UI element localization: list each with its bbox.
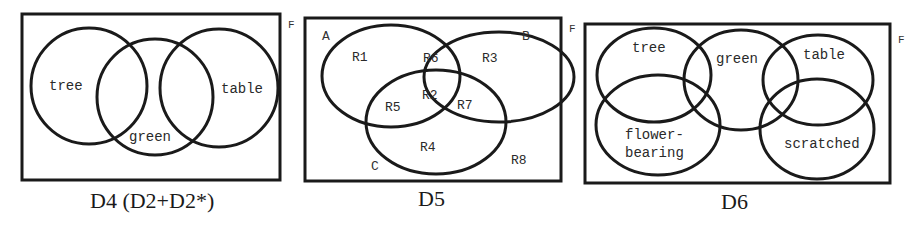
d5-region-r5: R5	[385, 100, 401, 115]
d6-label-scratched: scratched	[784, 136, 860, 152]
d5-region-r1: R1	[352, 50, 368, 65]
d4-label-tree: tree	[49, 78, 83, 94]
d5-caption: D5	[418, 186, 445, 211]
d6-caption: D6	[721, 189, 748, 214]
d5-region-r8: R8	[511, 153, 527, 168]
d5-set-label-c: C	[371, 159, 379, 174]
d4-frame-label: F	[288, 19, 295, 31]
d5-region-r6: R6	[423, 51, 439, 66]
d5-region-r7: R7	[457, 98, 473, 113]
d5-region-r3: R3	[482, 51, 498, 66]
d5-region-r4: R4	[420, 140, 436, 155]
d6-label-green: green	[716, 51, 758, 67]
d4-label-table: table	[221, 81, 263, 97]
diagram-d6: F tree green table flower- bearing scrat…	[585, 24, 905, 214]
d4-caption: D4 (D2+D2*)	[90, 188, 214, 213]
d6-ellipse-scratched	[760, 79, 874, 179]
d5-set-label-a: A	[322, 29, 330, 44]
d4-label-green: green	[129, 129, 171, 145]
d5-frame-label: F	[569, 23, 576, 35]
d5-region-r2: R2	[422, 88, 438, 103]
d6-label-flower-bearing-line1: flower-	[625, 127, 684, 143]
diagram-d5: F A B C R1 R2 R3 R4 R5 R6 R7 R8 D5	[305, 18, 576, 211]
d6-frame-label: F	[898, 34, 905, 46]
d5-ellipse-b	[424, 32, 574, 122]
d6-label-flower-bearing-line2: bearing	[625, 145, 684, 161]
d5-set-label-b: B	[522, 29, 530, 44]
d6-label-tree: tree	[632, 40, 666, 56]
d6-label-table: table	[803, 47, 845, 63]
diagram-d4: F tree green table D4 (D2+D2*)	[22, 14, 295, 213]
venn-diagrams-figure: F tree green table D4 (D2+D2*) F A B C R…	[0, 0, 921, 227]
